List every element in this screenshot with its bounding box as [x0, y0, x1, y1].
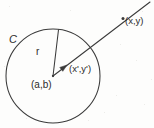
ray-line [53, 2, 150, 76]
geometry-figure: C r (a,b) (x',y') (x,y) [0, 0, 154, 128]
radius-line [53, 30, 59, 76]
label-inner-point-x-prime-y-prime: (x',y') [69, 64, 91, 74]
center-point-marker [52, 75, 54, 77]
label-circle-C: C [9, 34, 17, 45]
label-outer-point-x-y: (x,y) [125, 16, 143, 26]
label-center-ab: (a,b) [31, 80, 52, 90]
label-radius-r: r [36, 47, 39, 57]
